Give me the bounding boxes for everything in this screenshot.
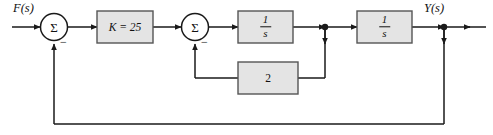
integrator-2-label: 1 s bbox=[379, 14, 391, 39]
inner-feedback-gain-label: 2 bbox=[265, 72, 271, 84]
integrator-2-denominator: s bbox=[379, 29, 391, 40]
sum1-feedback-sign: − bbox=[60, 35, 67, 50]
junction-dot-output bbox=[441, 24, 447, 30]
integrator-1-denominator: s bbox=[260, 29, 272, 40]
output-label: Y(s) bbox=[424, 1, 444, 16]
junction-dot-inner bbox=[322, 24, 328, 30]
integrator-1-label: 1 s bbox=[260, 14, 272, 39]
integrator-1-numerator: 1 bbox=[260, 14, 272, 25]
sum2-feedback-sign: − bbox=[201, 35, 208, 50]
integrator-2-numerator: 1 bbox=[379, 14, 391, 25]
diagram-canvas bbox=[0, 0, 493, 135]
gain-k-label: K = 25 bbox=[109, 21, 142, 33]
sigma-symbol-2: Σ bbox=[191, 20, 199, 36]
block-diagram-figure: F(s) Y(s) Σ Σ − − K = 25 1 s 1 s 2 bbox=[0, 0, 493, 135]
input-label: F(s) bbox=[13, 1, 34, 16]
sigma-symbol-1: Σ bbox=[50, 20, 58, 36]
